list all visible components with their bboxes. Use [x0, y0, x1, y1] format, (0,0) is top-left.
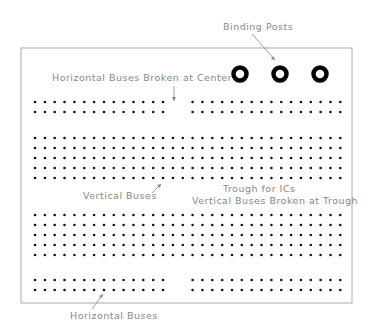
hole: [339, 157, 342, 160]
hole: [182, 224, 185, 227]
hole: [34, 244, 37, 247]
hole: [93, 111, 96, 114]
hole: [73, 157, 76, 160]
hole: [103, 101, 106, 104]
hole: [83, 111, 86, 114]
hole: [211, 147, 214, 150]
hole: [241, 101, 244, 104]
hole: [83, 214, 86, 217]
hole: [53, 137, 56, 140]
hole: [270, 224, 273, 227]
hole: [83, 137, 86, 140]
hole: [132, 177, 135, 180]
hole: [280, 177, 283, 180]
hole: [191, 137, 194, 140]
hole: [270, 147, 273, 150]
hole: [44, 224, 47, 227]
hole: [93, 214, 96, 217]
hole: [241, 254, 244, 257]
hole: [53, 177, 56, 180]
hole: [211, 157, 214, 160]
hole: [182, 167, 185, 170]
hole: [93, 254, 96, 257]
hole: [270, 157, 273, 160]
hole: [319, 101, 322, 104]
hole: [191, 214, 194, 217]
hole: [152, 177, 155, 180]
hole: [280, 111, 283, 114]
hole: [34, 234, 37, 237]
hole: [339, 177, 342, 180]
hole: [290, 279, 293, 282]
hole: [310, 147, 313, 150]
hole: [53, 214, 56, 217]
hole: [270, 214, 273, 217]
hole: [221, 244, 224, 247]
hole: [310, 279, 313, 282]
hole: [132, 157, 135, 160]
hole: [290, 177, 293, 180]
hole: [103, 234, 106, 237]
hole: [93, 279, 96, 282]
hole: [83, 101, 86, 104]
hole: [211, 279, 214, 282]
hole: [231, 177, 234, 180]
hole: [191, 234, 194, 237]
hole: [201, 111, 204, 114]
hole: [63, 167, 66, 170]
hole: [63, 177, 66, 180]
hole: [310, 244, 313, 247]
hole: [260, 214, 263, 217]
hole: [280, 167, 283, 170]
hole: [152, 101, 155, 104]
hole: [122, 147, 125, 150]
hole: [201, 214, 204, 217]
breadboard-diagram: Binding Posts Horizontal Buses Broken at…: [0, 0, 372, 334]
hole: [113, 137, 116, 140]
hole: [83, 244, 86, 247]
hole: [113, 234, 116, 237]
hole: [142, 244, 145, 247]
hole: [73, 137, 76, 140]
hole: [221, 279, 224, 282]
hole: [211, 224, 214, 227]
hole: [113, 157, 116, 160]
hole: [221, 111, 224, 114]
hole: [83, 279, 86, 282]
hole: [201, 234, 204, 237]
hole: [122, 244, 125, 247]
hole: [113, 279, 116, 282]
hole: [73, 101, 76, 104]
hole: [103, 244, 106, 247]
hole: [201, 157, 204, 160]
hole: [250, 254, 253, 257]
hole: [231, 234, 234, 237]
hole: [270, 137, 273, 140]
hole: [113, 111, 116, 114]
hole: [172, 224, 175, 227]
hole: [221, 214, 224, 217]
hole: [132, 137, 135, 140]
hole: [152, 224, 155, 227]
hole: [191, 177, 194, 180]
hole: [113, 214, 116, 217]
hole: [34, 167, 37, 170]
hole: [142, 254, 145, 257]
hole: [260, 279, 263, 282]
hole: [113, 224, 116, 227]
hole: [260, 111, 263, 114]
hole: [93, 177, 96, 180]
hole: [211, 254, 214, 257]
hole: [319, 254, 322, 257]
hole: [63, 279, 66, 282]
hole: [339, 234, 342, 237]
hole: [300, 157, 303, 160]
hole: [44, 101, 47, 104]
hole: [34, 101, 37, 104]
hole: [290, 244, 293, 247]
label-trough: Trough for ICs: [222, 183, 295, 194]
hole: [231, 244, 234, 247]
hole: [142, 234, 145, 237]
hole: [329, 224, 332, 227]
hole: [182, 244, 185, 247]
